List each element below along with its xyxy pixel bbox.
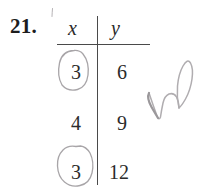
handwritten-no-annotation — [148, 61, 192, 119]
header-rule — [57, 44, 150, 45]
worksheet-page: 21. x y 3 6 4 9 3 12 — [0, 0, 210, 189]
problem-number: 21. — [10, 16, 37, 37]
table-cell-x-row3: 3 — [71, 162, 81, 182]
table-cell-x-row2: 4 — [71, 113, 81, 133]
column-divider-rule — [97, 16, 98, 185]
tick-mark-annotation — [52, 9, 53, 17]
column-header-x: x — [68, 18, 77, 38]
table-cell-y-row1: 6 — [117, 62, 127, 82]
table-cell-x-row1: 3 — [71, 62, 81, 82]
table-cell-y-row2: 9 — [117, 113, 127, 133]
table-cell-y-row3: 12 — [109, 162, 129, 182]
column-header-y: y — [111, 18, 120, 38]
